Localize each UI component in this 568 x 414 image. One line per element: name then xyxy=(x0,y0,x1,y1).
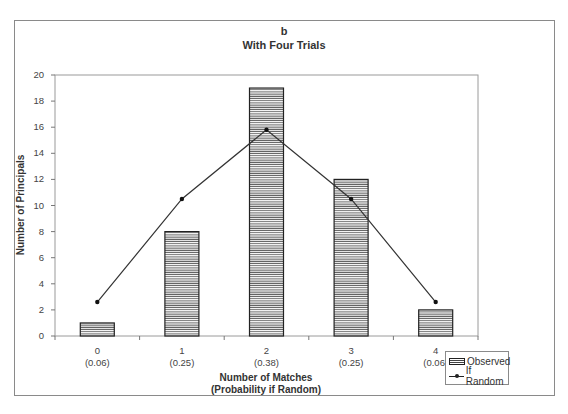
x-axis-label: Number of Matches xyxy=(220,372,313,383)
line-marker xyxy=(180,197,184,201)
bar-swatch-icon xyxy=(449,358,465,365)
bar-observed xyxy=(419,310,453,336)
line-marker-icon xyxy=(449,373,464,380)
legend: Observed If Random xyxy=(445,351,509,385)
legend-item-random: If Random xyxy=(449,369,508,383)
x-axis-sublabel: (Probability if Random) xyxy=(211,384,321,395)
line-marker xyxy=(264,128,268,132)
line-marker xyxy=(434,300,438,304)
line-marker xyxy=(349,197,353,201)
bar-observed xyxy=(80,323,114,336)
bar-observed xyxy=(250,88,284,336)
line-marker xyxy=(95,300,99,304)
bar-observed xyxy=(334,179,368,336)
bar-observed xyxy=(165,232,199,336)
legend-label-random: If Random xyxy=(466,365,508,387)
